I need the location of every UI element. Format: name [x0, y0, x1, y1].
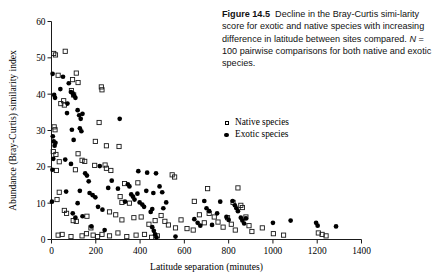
data-point-exotic: [315, 223, 320, 228]
data-point-exotic: [89, 224, 94, 229]
data-point-native: [85, 214, 89, 218]
data-point-native: [107, 210, 111, 214]
data-point-native: [159, 213, 163, 217]
data-point-exotic: [236, 209, 241, 214]
data-point-exotic: [160, 190, 165, 195]
data-point-exotic: [50, 71, 55, 76]
data-point-exotic: [70, 211, 75, 216]
data-point-native: [271, 232, 275, 236]
data-point-native: [212, 215, 216, 219]
data-point-native: [185, 227, 189, 231]
data-point-native: [97, 120, 101, 124]
data-point-native: [54, 168, 58, 172]
data-point-exotic: [148, 210, 153, 215]
data-point-native: [206, 187, 210, 191]
data-point-native: [70, 78, 74, 82]
data-point-native: [107, 234, 111, 238]
data-point-native: [69, 234, 73, 238]
data-point-exotic: [173, 234, 178, 239]
x-tick-label: 0: [49, 246, 54, 256]
x-tick-label: 1200: [308, 246, 327, 256]
data-point-exotic: [136, 169, 141, 174]
data-point-exotic: [73, 215, 78, 220]
data-point-native: [76, 80, 80, 84]
y-tick-label: 60: [36, 17, 46, 27]
data-point-exotic: [202, 199, 207, 204]
data-point-native: [202, 221, 206, 225]
y-tick-label: 10: [36, 199, 46, 209]
data-point-native: [233, 228, 237, 232]
data-point-exotic: [144, 188, 149, 193]
data-point-exotic: [75, 108, 80, 113]
data-point-native: [116, 231, 120, 235]
data-point-exotic: [63, 157, 68, 162]
data-point-exotic: [123, 199, 128, 204]
data-point-native: [100, 232, 104, 236]
data-point-native: [134, 233, 138, 237]
data-point-native: [80, 234, 84, 238]
x-tick-label: 800: [222, 246, 236, 256]
data-point-native: [247, 224, 251, 228]
y-tick-label: 30: [36, 126, 46, 136]
data-point-exotic: [127, 184, 132, 189]
data-point-exotic: [64, 189, 69, 194]
data-point-exotic: [226, 218, 231, 223]
y-tick-label: 40: [36, 90, 46, 100]
data-point-native: [118, 195, 122, 199]
data-point-exotic: [244, 216, 249, 221]
data-point-native: [125, 234, 129, 238]
data-point-native: [109, 168, 113, 172]
data-point-exotic: [161, 206, 166, 211]
data-point-exotic: [100, 207, 105, 212]
data-point-exotic: [210, 223, 215, 228]
x-tick-label: 600: [177, 246, 191, 256]
data-point-exotic: [198, 223, 203, 228]
data-point-native: [120, 218, 124, 222]
data-point-exotic: [96, 204, 101, 209]
data-point-exotic: [50, 167, 55, 172]
data-point-exotic: [106, 186, 111, 191]
data-point-exotic: [93, 195, 98, 200]
data-point-native: [117, 144, 121, 148]
data-point-exotic: [109, 178, 114, 183]
x-axis-title: Latitude separation (minutes): [150, 261, 263, 273]
data-point-native: [76, 152, 80, 156]
data-point-exotic: [154, 235, 159, 240]
data-point-native: [173, 226, 177, 230]
data-point-exotic: [132, 197, 137, 202]
data-point-native: [93, 139, 97, 143]
data-point-exotic: [69, 162, 74, 167]
data-point-exotic: [192, 217, 197, 222]
data-point-native: [127, 201, 131, 205]
data-point-exotic: [334, 224, 339, 229]
data-point-exotic: [97, 164, 102, 169]
data-point-native: [216, 220, 220, 224]
data-point-native: [57, 160, 61, 164]
data-point-exotic: [58, 87, 63, 92]
data-point-exotic: [61, 74, 66, 79]
data-point-exotic: [50, 199, 55, 204]
data-point-native: [250, 229, 254, 233]
data-point-native: [236, 186, 240, 190]
y-tick-label: 0: [41, 235, 46, 245]
data-point-exotic: [65, 101, 70, 106]
data-point-exotic: [117, 117, 122, 122]
data-point-exotic: [218, 199, 223, 204]
data-point-native: [136, 181, 140, 185]
data-point-exotic: [80, 111, 85, 116]
data-point-exotic: [70, 127, 75, 132]
data-point-exotic: [242, 221, 247, 226]
plot-axes: [48, 22, 362, 244]
data-point-native: [62, 99, 66, 103]
data-point-exotic: [116, 186, 121, 191]
data-point-native: [91, 233, 95, 237]
plot-data-points: [50, 49, 339, 239]
data-point-exotic: [80, 214, 85, 219]
data-point-exotic: [271, 220, 276, 225]
data-point-exotic: [145, 170, 150, 175]
data-point-exotic: [288, 218, 293, 223]
data-point-native: [132, 216, 136, 220]
data-point-exotic: [135, 191, 140, 196]
data-point-native: [149, 235, 153, 239]
data-point-exotic: [79, 129, 84, 134]
